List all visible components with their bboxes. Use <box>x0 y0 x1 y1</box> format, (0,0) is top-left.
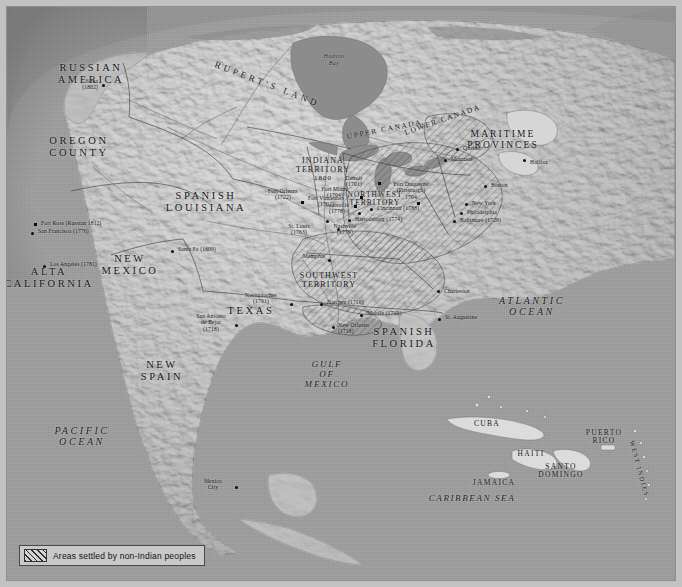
label-fort-miami: Fort Miami(1704) <box>313 186 357 199</box>
marker-montreal <box>444 159 447 162</box>
label-san-antonio-de-bejar: San Antoniode Bejar(1718) <box>185 313 237 332</box>
marker-fort-ross <box>34 223 37 226</box>
marker-st-louis <box>326 220 329 223</box>
label-sitka: Sitka(1802) <box>62 78 98 91</box>
marker-natchez <box>320 303 323 306</box>
label-haiti: HAITI <box>503 450 559 458</box>
marker-st-augustine <box>438 318 441 321</box>
marker-memphis <box>328 259 331 262</box>
label-st-augustine: St. Augustine <box>445 314 477 320</box>
marker-harrodsburg <box>348 219 351 222</box>
label-montreal: Montreal <box>451 156 473 162</box>
label-los-angeles: Los Angeles (1781) <box>50 261 97 267</box>
label-natchez: Natchez (1716) <box>327 299 364 305</box>
label-alta-california: ALTACALIFORNIA <box>6 266 97 290</box>
label-puerto-rico: PUERTORICO <box>575 429 633 446</box>
label-san-francisco: San Francisco (1776) <box>38 228 89 234</box>
label-gulf-of-mexico: GULFOFMEXICO <box>272 359 382 389</box>
label-fort-ross: Fort Ross (Russian 1812) <box>41 220 102 226</box>
label-fort-duquesne: Fort Duquesne(Pittsburgh)1704 <box>385 181 437 200</box>
label-fort-orleans: Fort Orleans(1722) <box>259 188 307 201</box>
marker-new-orleans <box>332 326 335 329</box>
marker-quebec <box>456 148 459 151</box>
label-nashville: Nashville(1779) <box>325 223 365 236</box>
hatch-swatch-icon <box>24 549 47 562</box>
marker-philadelphia <box>460 212 463 215</box>
label-pacific-ocean: PACIFICOCEAN <box>7 425 157 447</box>
label-cincinnati: Cincinnati (1788) <box>377 205 419 211</box>
label-hudson-bay: HudsonBay <box>307 53 361 66</box>
label-spanish-louisiana: SPANISHLOUISIANA <box>153 190 259 214</box>
label-jamaica: JAMAICA <box>463 479 525 487</box>
marker-fort-miami <box>360 196 363 199</box>
label-memphis: Memphis <box>291 253 325 259</box>
label-cuba: CUBA <box>457 420 517 428</box>
marker-baltimore <box>453 220 456 223</box>
historical-map-figure: PACIFICOCEAN ATLANTICOCEAN GULFOFMEXICO … <box>0 0 682 587</box>
map-legend: Areas settled by non-Indian peoples <box>19 545 205 566</box>
label-detroit: Detroit(1701) <box>333 175 375 188</box>
marker-santa-fe <box>171 250 174 253</box>
label-new-york: New York <box>472 200 496 206</box>
marker-nacogdoches <box>290 303 293 306</box>
marker-boston <box>484 185 487 188</box>
label-philadelphia: Philadelphia <box>467 209 497 215</box>
label-caribbean-sea: CARIBBEAN SEA <box>407 493 537 503</box>
label-quebec: Quebec <box>463 145 481 151</box>
marker-cincinnati <box>370 208 373 211</box>
label-new-spain: NEWSPAIN <box>117 359 207 383</box>
marker-charleston <box>437 290 440 293</box>
label-mexico-city: MexicoCity <box>193 478 233 491</box>
marker-louisville <box>358 212 361 215</box>
label-baltimore: Baltimore (1729) <box>460 217 501 223</box>
marker-detroit <box>378 182 381 185</box>
label-st-louis: St. Louis(1763) <box>279 223 319 236</box>
marker-mexico-city <box>235 486 238 489</box>
marker-los-angeles <box>43 265 46 268</box>
marker-fort-duquesne <box>417 202 420 205</box>
label-mobile: Mobile (1710) <box>367 310 401 316</box>
label-santa-fe: Santa Fe (1609) <box>178 246 216 252</box>
marker-halifax <box>523 159 526 162</box>
marker-new-york <box>465 203 468 206</box>
label-atlantic-ocean: ATLANTICOCEAN <box>457 295 607 317</box>
label-new-orleans: New Orleans(1718) <box>338 322 392 335</box>
central-america <box>239 519 363 565</box>
label-nacogdoches: Nacogdoches(1791) <box>235 292 287 305</box>
marker-san-francisco <box>31 232 34 235</box>
legend-label: Areas settled by non-Indian peoples <box>53 551 196 561</box>
label-santo-domingo: SANTODOMINGO <box>531 463 591 480</box>
label-charleston: Charleston <box>444 288 470 294</box>
label-new-mexico: NEWMEXICO <box>87 253 173 277</box>
label-halifax: Halifax <box>530 159 548 165</box>
map-frame: PACIFICOCEAN ATLANTICOCEAN GULFOFMEXICO … <box>6 6 676 581</box>
marker-mobile <box>360 314 363 317</box>
label-oregon-county: OREGONCOUNTY <box>31 135 127 159</box>
label-harrodsburg: Harrodsburg (1774) <box>355 216 402 222</box>
marker-sitka <box>102 84 105 87</box>
yucatan-peninsula <box>268 473 317 517</box>
marker-fort-vincennes <box>354 205 357 208</box>
label-southwest-territory: SOUTHWESTTERRITORY <box>283 272 375 290</box>
label-boston: Boston <box>491 182 508 188</box>
